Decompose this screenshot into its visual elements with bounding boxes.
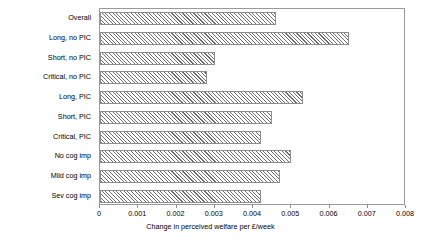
x-tick-mark — [252, 205, 253, 208]
x-tick-label: 0.007 — [358, 209, 376, 218]
bar — [100, 111, 272, 124]
x-tick-mark — [214, 205, 215, 208]
y-axis-label: Critical, no PIC — [0, 70, 95, 83]
bar-row — [100, 150, 406, 163]
y-axis-label: Critical, PIC — [0, 130, 95, 143]
x-tick-label: 0.001 — [128, 209, 146, 218]
bar-row — [100, 190, 406, 203]
y-axis-label: Long, PIC — [0, 90, 95, 103]
x-tick-label: 0.003 — [205, 209, 223, 218]
y-axis-category-labels: OverallLong, no PICShort, no PICCritical… — [0, 8, 95, 205]
x-tick-label: 0.006 — [320, 209, 338, 218]
plot-area — [99, 8, 405, 205]
y-axis-label: Short, no PIC — [0, 51, 95, 64]
bar — [100, 170, 280, 183]
bar-chart: OverallLong, no PICShort, no PICCritical… — [0, 0, 421, 252]
x-tick-mark — [329, 205, 330, 208]
bar-row — [100, 91, 406, 104]
x-tick-mark — [137, 205, 138, 208]
bar-row — [100, 12, 406, 25]
x-tick-label: 0 — [97, 209, 101, 218]
y-axis-label: Long, no PIC — [0, 31, 95, 44]
x-tick-mark — [99, 205, 100, 208]
x-tick-mark — [176, 205, 177, 208]
x-tick-label: 0.004 — [243, 209, 261, 218]
bar-row — [100, 131, 406, 144]
x-tick-label: 0.008 — [396, 209, 414, 218]
bar-row — [100, 32, 406, 45]
x-tick-mark — [367, 205, 368, 208]
bar — [100, 190, 261, 203]
x-tick-label: 0.005 — [281, 209, 299, 218]
x-tick-mark — [405, 205, 406, 208]
bar — [100, 91, 303, 104]
bar-row — [100, 52, 406, 65]
x-axis-ticks: 00.0010.0020.0030.0040.0050.0060.0070.00… — [99, 205, 405, 219]
bar-row — [100, 111, 406, 124]
bar — [100, 71, 207, 84]
bar-row — [100, 71, 406, 84]
y-axis-label: Short, PIC — [0, 110, 95, 123]
x-tick-label: 0.002 — [167, 209, 185, 218]
bar — [100, 12, 276, 25]
x-tick-mark — [290, 205, 291, 208]
bar — [100, 32, 349, 45]
y-axis-label: Overall — [0, 11, 95, 24]
bar — [100, 52, 215, 65]
y-axis-label: Sev cog imp — [0, 189, 95, 202]
x-axis-title: Change in perceived welfare per £/week — [0, 222, 421, 232]
bar — [100, 150, 291, 163]
bar — [100, 131, 261, 144]
bar-row — [100, 170, 406, 183]
y-axis-label: No cog imp — [0, 149, 95, 162]
y-axis-label: Mild cog imp — [0, 169, 95, 182]
